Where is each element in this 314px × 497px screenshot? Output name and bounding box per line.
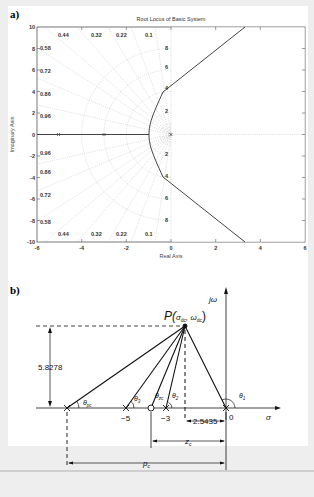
- y-axis-label: Imaginary Axis: [9, 116, 15, 152]
- y-tick-label: 8: [32, 46, 35, 52]
- x-axis-label: Real Axis: [160, 253, 183, 259]
- zeta-label: 0.1: [145, 231, 153, 237]
- pc-label: pc: [142, 459, 150, 469]
- x-tick-label: -2: [124, 245, 129, 251]
- wn-label: 6: [165, 195, 168, 201]
- tick-label-minus5: −5: [121, 414, 131, 423]
- y-tick-label: 2: [32, 110, 35, 116]
- zeta-label: 0.86: [40, 91, 51, 97]
- y-tick-label: -2: [30, 153, 35, 159]
- zeta-label: 0.22: [116, 32, 127, 38]
- y-tick-label: -8: [30, 218, 35, 224]
- zeta-label: 0.58: [40, 219, 51, 225]
- wn-label: 8: [165, 45, 168, 51]
- root-locus-plot: 0.44 0.32 0.22 0.1 0.58 0.72 0.86 0.96 0…: [9, 24, 307, 259]
- height-value: 5.8278: [38, 363, 63, 372]
- zeta-label: 0.72: [40, 192, 51, 198]
- figure: a) Root Locus of Basic System: [0, 0, 314, 497]
- zeta-label: 0.58: [40, 45, 51, 51]
- zeta-label: 0.44: [58, 231, 70, 237]
- zeta-label: 0.86: [40, 169, 51, 175]
- zeta-label: 0.32: [91, 32, 102, 38]
- imag-axis-label: jω: [208, 295, 217, 304]
- tick-label-zero: 0: [229, 413, 234, 422]
- zeta-label: 0.96: [40, 113, 51, 119]
- y-tick-label: -10: [27, 239, 35, 245]
- zeta-label: 0.22: [116, 231, 127, 237]
- separator-line: [0, 470, 314, 472]
- zeta-label: 0.44: [58, 32, 70, 38]
- panel-b-label: b): [10, 284, 20, 297]
- y-tick-label: 10: [29, 24, 35, 30]
- y-tick-label: 6: [32, 67, 35, 73]
- zeta-label: 0.72: [40, 68, 51, 74]
- chart-title: Root Locus of Basic System: [137, 16, 206, 22]
- panel-a-label: a): [10, 8, 20, 21]
- x-tick-label: -6: [35, 245, 40, 251]
- x-tick-label: 6: [303, 245, 306, 251]
- y-tick-label: -6: [30, 196, 35, 202]
- wn-label: 8: [165, 217, 168, 223]
- y-tick-label: 0: [32, 132, 35, 138]
- wn-label: 2: [165, 151, 168, 157]
- offset-value: 2.5435: [193, 417, 218, 426]
- zero-marker: [148, 405, 154, 411]
- x-tick-label: 0: [169, 245, 172, 251]
- tick-label-minus3: −3: [161, 414, 171, 423]
- zeta-label: 0.32: [91, 231, 102, 237]
- zeta-label: 0.1: [145, 32, 153, 38]
- x-tick-label: 2: [214, 245, 217, 251]
- point-p: [183, 324, 187, 328]
- wn-label: 2: [165, 108, 168, 114]
- wn-label: 6: [165, 64, 168, 70]
- zeta-label: 0.96: [40, 150, 51, 156]
